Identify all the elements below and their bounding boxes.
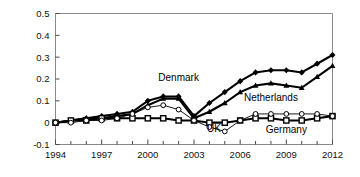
data-point-marker	[299, 112, 304, 117]
data-point-marker	[222, 120, 227, 125]
data-point-marker	[176, 107, 181, 112]
y-tick-label: 0.4	[36, 30, 49, 41]
data-point-marker	[222, 129, 227, 134]
annotation-label: Germany	[266, 124, 307, 135]
data-point-marker	[161, 103, 166, 108]
data-point-marker	[284, 112, 289, 117]
data-point-marker	[299, 118, 304, 123]
x-tick-label: 2012	[322, 149, 343, 160]
data-point-marker	[130, 112, 135, 117]
data-point-marker	[53, 120, 58, 125]
data-point-marker	[145, 105, 150, 110]
data-point-marker	[115, 116, 120, 121]
data-point-marker	[84, 118, 89, 123]
annotation-label: Netherlands	[244, 92, 298, 103]
annotation-label: Denmark	[158, 72, 200, 83]
data-point-marker	[238, 118, 243, 123]
x-tick-label: 1997	[91, 149, 112, 160]
y-tick-label: 0.2	[36, 73, 49, 84]
data-point-marker	[253, 112, 258, 117]
line-chart: 0.50.40.30.20.10-0.1 1994199720002003200…	[0, 0, 360, 177]
data-point-marker	[161, 116, 166, 121]
data-point-marker	[68, 120, 73, 125]
x-tick-label: 2006	[230, 149, 251, 160]
data-point-marker	[99, 118, 104, 123]
x-tick-label: 1994	[45, 149, 66, 160]
x-tick-label: 2000	[137, 149, 158, 160]
y-tick-label: 0	[44, 117, 49, 128]
x-tick-label: 2003	[183, 149, 204, 160]
data-point-marker	[330, 114, 335, 119]
chart-container: 0.50.40.30.20.10-0.1 1994199720002003200…	[0, 0, 360, 177]
y-tick-label: 0.3	[36, 52, 49, 63]
data-point-marker	[315, 112, 320, 117]
data-point-marker	[145, 116, 150, 121]
y-tick-label: 0.5	[36, 8, 49, 19]
data-point-marker	[284, 118, 289, 123]
x-tick-label: 2009	[276, 149, 297, 160]
data-point-marker	[176, 118, 181, 123]
data-point-marker	[269, 112, 274, 117]
y-tick-label: 0.1	[36, 95, 49, 106]
data-point-marker	[192, 118, 197, 123]
annotation-label: UK	[207, 123, 221, 134]
